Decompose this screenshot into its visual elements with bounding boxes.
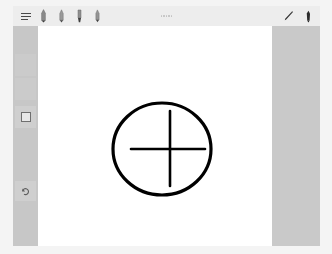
- drawing-canvas[interactable]: [38, 26, 272, 246]
- pen-tool-glyph: [39, 9, 48, 23]
- highlighter-tool-glyph: [75, 9, 84, 23]
- sidebar-slot-shape[interactable]: [15, 106, 36, 128]
- pencil-tool-glyph: [283, 10, 294, 22]
- application-window: [13, 6, 320, 246]
- marker-tool-icon[interactable]: [56, 10, 67, 23]
- menu-icon[interactable]: [20, 10, 31, 23]
- highlighter-tool-icon[interactable]: [74, 10, 85, 23]
- ink-pen-tool-glyph: [305, 10, 312, 23]
- square-icon: [21, 112, 31, 122]
- sidebar-slot-undo[interactable]: [15, 181, 36, 201]
- sidebar-slot-2[interactable]: [15, 78, 36, 100]
- canvas-right-gutter: [272, 26, 320, 246]
- pencil-tool-icon[interactable]: [283, 10, 294, 23]
- pen-tool-icon[interactable]: [38, 10, 49, 23]
- left-sidebar: [13, 26, 38, 246]
- brush-tool-icon[interactable]: [92, 10, 103, 23]
- window-body: [13, 26, 320, 246]
- top-toolbar: [13, 6, 320, 26]
- menu-icon-glyph: [21, 13, 31, 20]
- toolbar-right-group: [283, 6, 314, 26]
- marker-tool-glyph: [57, 9, 66, 23]
- brush-tool-glyph: [93, 9, 102, 23]
- more-options-icon[interactable]: [161, 15, 173, 17]
- app-root: [0, 0, 332, 254]
- circle-crosshair-sketch: [38, 26, 272, 246]
- ink-pen-tool-icon[interactable]: [303, 10, 314, 23]
- undo-icon: [21, 187, 30, 196]
- sidebar-slot-1[interactable]: [15, 54, 36, 76]
- toolbar-left-group: [13, 10, 103, 23]
